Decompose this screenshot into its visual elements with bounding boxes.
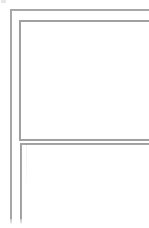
upper-panel-top-border [19, 20, 149, 22]
outer-frame-top-border [10, 9, 149, 11]
upper-panel-left-border [19, 20, 21, 141]
lower-panel-top-border [20, 143, 149, 145]
outer-frame-left-border [10, 9, 12, 225]
upper-panel-bottom-border [19, 139, 149, 141]
lower-panel-inner-faint-rule [26, 145, 27, 185]
lower-panel-surface [23, 146, 149, 222]
page-canvas [0, 0, 149, 228]
outer-frame-left-border-fade [10, 219, 12, 225]
lower-panel-left-border [20, 143, 22, 222]
lower-panel-left-border-fade [20, 219, 22, 225]
upper-panel-surface [22, 23, 149, 138]
corner-speck-mark [1, 0, 6, 3]
